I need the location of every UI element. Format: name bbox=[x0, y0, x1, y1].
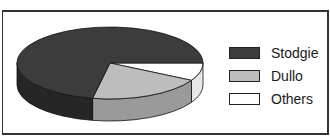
legend-item-stodgie: Stodgie bbox=[229, 41, 318, 64]
legend-swatch-dullo bbox=[229, 70, 260, 82]
legend-item-dullo: Dullo bbox=[229, 64, 318, 87]
legend-label: Dullo bbox=[271, 68, 303, 84]
legend-swatch-others bbox=[229, 93, 260, 105]
legend-swatch-stodgie bbox=[229, 47, 260, 59]
legend: Stodgie Dullo Others bbox=[229, 41, 318, 110]
legend-label: Others bbox=[271, 91, 313, 107]
legend-item-others: Others bbox=[229, 87, 318, 110]
legend-label: Stodgie bbox=[271, 45, 318, 61]
